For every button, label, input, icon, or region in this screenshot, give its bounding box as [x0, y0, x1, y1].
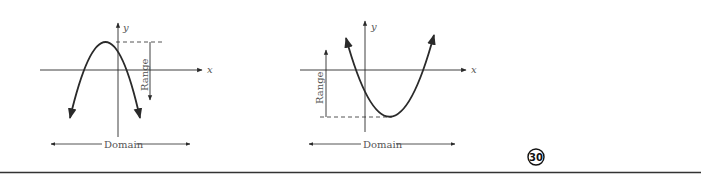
y-axis-label: y: [370, 21, 377, 32]
parabola-curve: [70, 42, 140, 118]
parabola-curve: [346, 35, 434, 117]
x-axis-label: x: [207, 64, 213, 75]
y-axis-label: y: [122, 22, 129, 33]
diagram-downward-parabola: x y Range Domain: [40, 22, 213, 150]
range-label: Range: [314, 71, 325, 104]
badge-number: 30: [529, 152, 543, 163]
domain-label: Domain: [363, 139, 403, 150]
domain-label: Domain: [104, 139, 144, 150]
figure-canvas: x y Range Domain x y Range Domai: [0, 0, 701, 177]
x-axis-label: x: [471, 64, 477, 75]
range-label: Range: [139, 58, 150, 91]
diagram-upward-parabola: x y Range Domain: [300, 21, 477, 150]
figure-number-badge: 30: [528, 149, 544, 165]
